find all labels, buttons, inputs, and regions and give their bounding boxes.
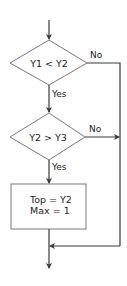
decision-1-text: Y1 < Y2	[29, 58, 68, 69]
process-line-1: Top = Y2	[29, 194, 72, 205]
decision-2-yes-label: Yes	[51, 162, 67, 172]
decision-2-text: Y2 > Y3	[28, 132, 67, 143]
decision-1-yes-label: Yes	[51, 89, 67, 99]
flowchart: Y1 < Y2 No Yes Y2 > Y3 No Yes Top = Y2 M…	[0, 0, 127, 286]
decision-1-no-connector	[87, 63, 120, 246]
process-line-2: Max = 1	[30, 205, 70, 216]
decision-1-no-label: No	[90, 50, 103, 60]
decision-2-no-label: No	[89, 124, 102, 134]
